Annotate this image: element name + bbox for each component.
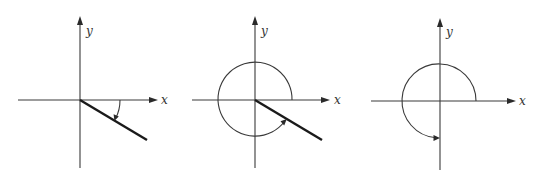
panel-3: x y [371, 18, 526, 170]
arc-arrowhead-icon [434, 135, 441, 141]
x-axis-arrow-icon [321, 97, 330, 103]
x-axis-label: x [161, 93, 168, 107]
y-axis-arrow-icon [437, 18, 443, 27]
panel-1: x y [18, 16, 168, 168]
y-axis-label: y [445, 25, 453, 39]
panel-2: x y [192, 16, 341, 168]
arc-arrowhead-icon [114, 114, 119, 121]
y-axis-label: y [85, 24, 93, 38]
x-axis-arrow-icon [507, 98, 516, 104]
y-axis-label: y [260, 24, 268, 38]
terminal-side [80, 100, 147, 140]
y-axis-arrow-icon [77, 16, 83, 25]
x-axis-label: x [334, 93, 341, 107]
terminal-side [255, 100, 322, 140]
x-axis-label: x [519, 94, 526, 108]
y-axis-arrow-icon [252, 16, 258, 25]
angle-diagrams: x y x y x y [0, 0, 535, 181]
x-axis-arrow-icon [149, 97, 158, 103]
